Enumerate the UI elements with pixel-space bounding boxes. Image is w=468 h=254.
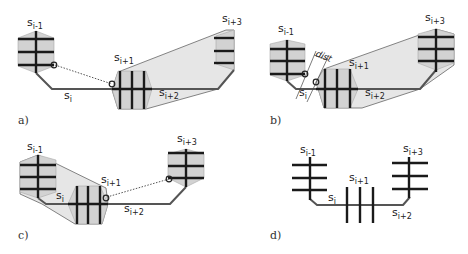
label-s-i: si: [64, 89, 72, 104]
panel-b: dist si-1 si si+1 si+2 si+3 b): [270, 11, 454, 127]
panel-caption-a: a): [18, 114, 29, 127]
dist-label: dist: [314, 49, 333, 65]
label-s-i-plus-1: si+1: [101, 173, 121, 188]
panel-caption-b: b): [270, 114, 281, 127]
label-s-i-minus-1: si-1: [27, 140, 43, 155]
label-s-i-plus-3: si+3: [425, 11, 445, 26]
label-s-i-plus-3: si+3: [222, 12, 242, 27]
label-s-i-plus-1: si+1: [349, 171, 369, 186]
label-s-i: si: [328, 191, 336, 206]
label-s-i-plus-3: si+3: [403, 142, 423, 157]
label-s-i-minus-1: si-1: [278, 22, 294, 37]
label-s-i-plus-1: si+1: [114, 51, 134, 66]
panel-a: si-1 si si+1 si+2 si+3 a): [18, 12, 242, 127]
road-segment-merge-diagram: si-1 si si+1 si+2 si+3 a) dist si-1 si: [0, 0, 468, 254]
label-s-i-minus-1: si-1: [300, 143, 316, 158]
panel-d: si-1 si si+1 si+2 si+3 d): [270, 142, 428, 242]
label-s-i-minus-1: si-1: [27, 16, 43, 31]
panel-caption-c: c): [18, 229, 28, 242]
label-s-i-plus-2: si+2: [392, 206, 412, 221]
panel-caption-d: d): [270, 229, 281, 242]
panel-c: si-1 si si+1 si+2 si+3 c): [18, 132, 204, 242]
label-s-i-plus-3: si+3: [177, 132, 197, 147]
